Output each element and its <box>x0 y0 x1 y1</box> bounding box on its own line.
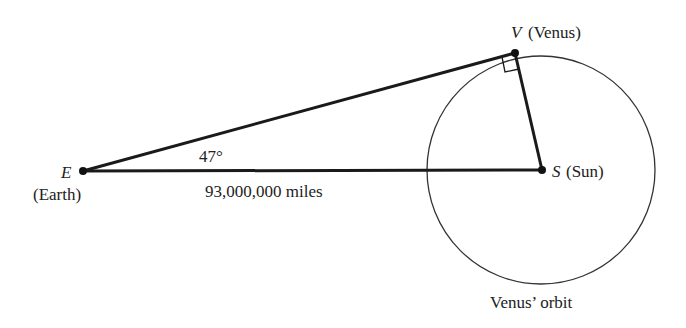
earth-venus-line <box>83 53 515 171</box>
sun-point <box>538 166 546 174</box>
earth-sun-line <box>83 170 542 171</box>
venus-letter-label: V <box>511 23 524 42</box>
sun-name-label: (Sun) <box>566 162 604 181</box>
venus-sun-line <box>515 53 542 170</box>
sun-letter-label: S <box>552 162 561 181</box>
venus-point <box>511 49 519 57</box>
earth-letter-label: E <box>60 163 72 182</box>
orbit-label: Venus’ orbit <box>490 293 573 312</box>
earth-venus-sun-diagram: E (Earth) V (Venus) S (Sun) 47° 93,000,0… <box>0 0 686 328</box>
angle-label: 47° <box>199 147 223 166</box>
venus-name-label: (Venus) <box>528 23 581 42</box>
earth-point <box>79 167 87 175</box>
distance-label: 93,000,000 miles <box>205 182 323 201</box>
earth-name-label: (Earth) <box>33 185 81 204</box>
